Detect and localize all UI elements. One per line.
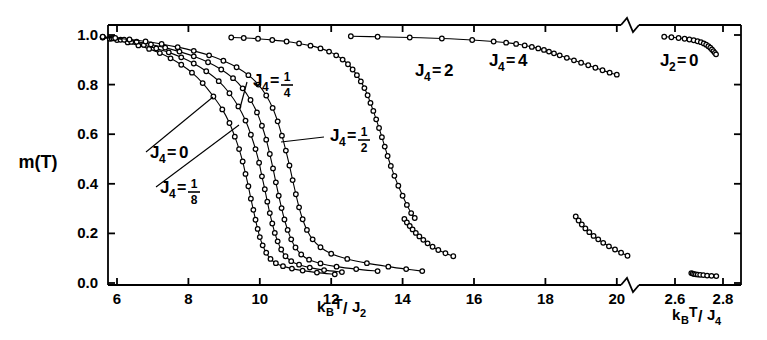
- xtick-label-right-1: 2.8: [713, 290, 734, 307]
- data-point-2-13: [255, 110, 260, 115]
- data-point-0-21: [253, 217, 258, 222]
- svg-text:k: k: [317, 298, 326, 315]
- data-point-4-21: [380, 135, 385, 140]
- data-point-3-17: [287, 163, 292, 168]
- data-point-4-13: [355, 73, 360, 78]
- data-point-2-25: [299, 252, 304, 257]
- data-point-7-8: [607, 244, 612, 249]
- annotation-5: J4=4: [489, 51, 528, 74]
- svg-text:4: 4: [498, 60, 505, 74]
- ytick-label-2: 0.4: [77, 175, 99, 192]
- xtick-label-right-0: 2.6: [665, 290, 686, 307]
- data-point-3-6: [191, 49, 196, 54]
- data-point-6-22: [615, 72, 620, 77]
- data-point-5-8: [430, 244, 435, 249]
- data-point-0-26: [268, 257, 273, 262]
- svg-text:1: 1: [361, 125, 368, 139]
- data-point-4-29: [409, 211, 414, 216]
- data-point-6-7: [514, 42, 519, 47]
- data-point-3-29: [404, 267, 409, 272]
- data-point-4-30: [412, 216, 417, 221]
- data-point-3-26: [345, 257, 350, 262]
- data-point-0-31: [315, 270, 320, 275]
- data-point-1-15: [253, 147, 258, 152]
- data-point-3-20: [297, 205, 302, 210]
- data-point-1-11: [227, 91, 232, 96]
- svg-text:=: =: [506, 52, 515, 69]
- data-point-7-10: [619, 250, 624, 255]
- data-point-9-9: [714, 274, 719, 279]
- xtick-label-left-4: 14: [394, 290, 411, 307]
- data-point-3-0: [100, 34, 105, 39]
- data-point-0-32: [332, 272, 337, 277]
- svg-text:=: =: [270, 72, 279, 89]
- data-point-6-2: [407, 35, 412, 40]
- data-point-4-25: [392, 174, 397, 179]
- data-point-1-18: [263, 187, 268, 192]
- data-point-3-27: [365, 261, 370, 266]
- data-point-2-22: [285, 228, 290, 233]
- svg-text:=: =: [347, 127, 356, 144]
- data-point-4-1: [241, 36, 246, 41]
- data-point-2-12: [248, 98, 253, 103]
- data-point-7-3: [583, 226, 588, 231]
- data-point-4-5: [297, 41, 302, 46]
- data-point-4-16: [365, 93, 370, 98]
- data-point-6-21: [607, 70, 612, 75]
- svg-text:4: 4: [159, 152, 166, 166]
- data-point-0-22: [255, 227, 260, 232]
- data-point-4-7: [318, 46, 323, 51]
- data-point-0-12: [220, 107, 225, 112]
- data-point-4-18: [371, 109, 376, 114]
- svg-text:4: 4: [284, 86, 291, 100]
- data-point-1-22: [272, 231, 277, 236]
- data-point-1-6: [166, 50, 171, 55]
- annotation-4: J4=2: [415, 61, 453, 84]
- data-point-1-21: [270, 221, 275, 226]
- data-point-1-24: [279, 247, 284, 252]
- xtick-label-left-6: 18: [537, 290, 554, 307]
- svg-text:4: 4: [169, 187, 176, 201]
- y-axis-label: m(T): [19, 152, 58, 172]
- data-point-4-22: [382, 144, 387, 149]
- data-point-0-20: [251, 208, 256, 213]
- data-point-2-10: [231, 76, 236, 81]
- data-point-5-7: [425, 241, 430, 246]
- data-point-3-13: [270, 106, 275, 111]
- data-point-2-2: [122, 37, 127, 42]
- data-point-4-15: [362, 86, 367, 91]
- data-point-6-6: [504, 40, 509, 45]
- data-point-2-26: [307, 257, 312, 262]
- data-point-4-19: [374, 117, 379, 122]
- data-point-2-18: [274, 180, 279, 185]
- data-point-1-13: [243, 118, 248, 123]
- data-point-0-23: [258, 235, 263, 240]
- data-point-2-24: [293, 245, 298, 250]
- svg-text:0: 0: [689, 51, 698, 70]
- data-point-3-16: [284, 148, 289, 153]
- data-point-6-10: [536, 46, 541, 51]
- svg-text:0: 0: [179, 143, 188, 162]
- svg-text:=: =: [167, 144, 176, 161]
- data-point-6-1: [375, 34, 380, 39]
- ytick-label-5: 1.0: [77, 26, 98, 43]
- ytick-label-3: 0.6: [77, 125, 98, 142]
- data-point-5-10: [443, 251, 448, 256]
- data-point-2-19: [276, 193, 281, 198]
- data-point-6-4: [470, 38, 475, 43]
- series-line-1: [103, 37, 342, 272]
- data-point-6-3: [440, 36, 445, 41]
- svg-text:2: 2: [669, 60, 676, 74]
- data-point-2-16: [268, 152, 273, 157]
- data-point-4-2: [256, 36, 261, 41]
- data-point-4-17: [368, 101, 373, 106]
- data-point-1-20: [268, 211, 273, 216]
- xtick-label-left-7: 20: [608, 290, 625, 307]
- data-point-6-20: [600, 68, 605, 73]
- data-point-1-27: [297, 262, 302, 267]
- data-point-8-0: [662, 34, 667, 39]
- data-point-4-28: [405, 203, 410, 208]
- svg-text:4: 4: [339, 135, 346, 149]
- data-point-0-27: [274, 261, 279, 266]
- data-point-2-27: [318, 261, 323, 266]
